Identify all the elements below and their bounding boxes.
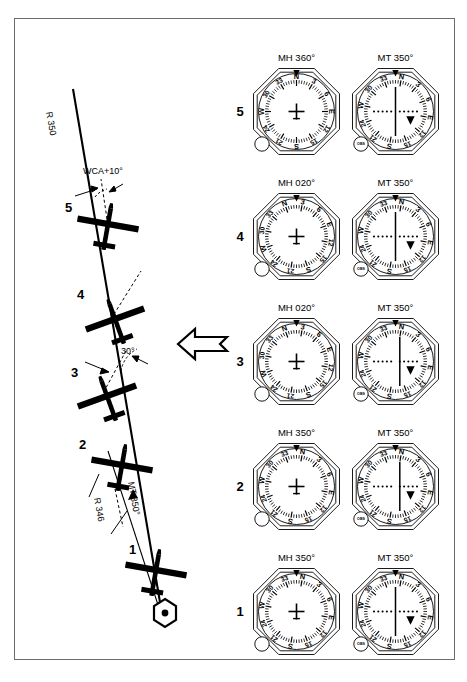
svg-text:OBS: OBS — [357, 642, 365, 646]
aircraft-number-4: 4 — [77, 288, 84, 301]
instrument-row-number-4: 4 — [232, 229, 248, 244]
heading-indicator-title-2: MH 350° — [249, 427, 344, 438]
vor-indicator-4[interactable]: MT 350°N36E1215S2124W3033OBS — [348, 177, 443, 302]
instrument-row-number-5: 5 — [232, 104, 248, 119]
aircraft-3 — [71, 366, 145, 431]
svg-text:30: 30 — [258, 351, 266, 360]
heading-indicator-face[interactable]: N36E1215S2124W3033 — [249, 64, 344, 159]
heading-indicator-title-4: MH 020° — [249, 177, 344, 188]
instrument-row-1: 1MH 350°N36E1215S2124W3033MT 350°N36E121… — [227, 552, 456, 677]
intercept-arrows — [85, 356, 148, 374]
vor-indicator-face[interactable]: N36E1215S2124W3033OBS — [348, 564, 443, 659]
vor-indicator-face[interactable]: N36E1215S2124W3033OBS — [348, 64, 443, 159]
wind-arrow — [178, 329, 227, 359]
vor-indicator-title-1: MT 350° — [348, 552, 443, 563]
vor-indicator-face[interactable]: N36E1215S2124W3033OBS — [348, 439, 443, 534]
svg-text:S: S — [294, 142, 299, 151]
vor-indicator-title-4: MT 350° — [348, 177, 443, 188]
vor-indicator-3[interactable]: MT 350°N36E1215S2124W3033OBS — [348, 302, 443, 427]
wca-angle-marks — [95, 189, 107, 197]
vor-indicator-face[interactable]: N36E1215S2124W3033OBS — [348, 189, 443, 284]
instrument-row-3: 3MH 020°N36E1215S2124W3033MT 350°N36E121… — [227, 302, 456, 427]
figure-border: R 350 WCA+10° 30° MT 350° R 346 5 4 3 2 … — [14, 18, 455, 660]
instrument-row-4: 4MH 020°N36E1215S2124W3033MT 350°N36E121… — [227, 177, 456, 302]
navigation-diagram: R 350 WCA+10° 30° MT 350° R 346 5 4 3 2 … — [15, 19, 245, 661]
vor-indicator-1[interactable]: MT 350°N36E1215S2124W3033OBS — [348, 552, 443, 677]
aircraft-number-3: 3 — [71, 366, 78, 379]
instrument-grid: 5MH 360°N36E1215S2124W3033MT 350°N36E121… — [227, 19, 456, 661]
aircraft-number-2: 2 — [79, 438, 86, 451]
wca-label: WCA+10° — [83, 167, 123, 176]
instrument-row-number-3: 3 — [232, 354, 248, 369]
vor-indicator-title-2: MT 350° — [348, 427, 443, 438]
heading-indicator-title-5: MH 360° — [249, 52, 344, 63]
svg-text:OBS: OBS — [357, 142, 365, 146]
aircraft-number-1: 1 — [129, 543, 136, 556]
instrument-row-number-2: 2 — [232, 479, 248, 494]
radial-350-leader — [89, 474, 99, 497]
heading-indicator-face[interactable]: N36E1215S2124W3033 — [249, 564, 344, 659]
heading-indicator-face[interactable]: N36E1215S2124W3033 — [249, 439, 344, 534]
heading-indicator-face[interactable]: N36E1215S2124W3033 — [249, 189, 344, 284]
aircraft-2 — [87, 439, 156, 496]
svg-text:OBS: OBS — [357, 392, 365, 396]
heading-indicator-2[interactable]: MH 350°N36E1215S2124W3033 — [249, 427, 344, 552]
heading-indicator-1[interactable]: MH 350°N36E1215S2124W3033 — [249, 552, 344, 677]
radial-346-leader — [111, 511, 127, 534]
vor-indicator-title-5: MT 350° — [348, 52, 443, 63]
svg-text:OBS: OBS — [357, 267, 365, 271]
aircraft-5 — [73, 198, 142, 255]
instrument-row-number-1: 1 — [232, 604, 248, 619]
heading-indicator-4[interactable]: MH 020°N36E1215S2124W3033 — [249, 177, 344, 302]
aircraft-number-5: 5 — [65, 201, 72, 214]
heading-indicator-3[interactable]: MH 020°N36E1215S2124W3033 — [249, 302, 344, 427]
instrument-row-5: 5MH 360°N36E1215S2124W3033MT 350°N36E121… — [227, 52, 456, 177]
heading-indicator-title-1: MH 350° — [249, 552, 344, 563]
vor-indicator-face[interactable]: N36E1215S2124W3033OBS — [348, 314, 443, 409]
heading-indicator-face[interactable]: N36E1215S2124W3033 — [249, 314, 344, 409]
wca-arrows — [75, 184, 123, 196]
vor-station-symbol — [154, 599, 176, 627]
aircraft-4 — [79, 289, 153, 354]
intercept-angle-label: 30° — [121, 347, 135, 356]
heading-indicator-title-3: MH 020° — [249, 302, 344, 313]
svg-text:OBS: OBS — [357, 517, 365, 521]
svg-text:E: E — [327, 109, 336, 114]
vor-indicator-title-3: MT 350° — [348, 302, 443, 313]
vor-indicator-2[interactable]: MT 350°N36E1215S2124W3033OBS — [348, 427, 443, 552]
heading-indicator-5[interactable]: MH 360°N36E1215S2124W3033 — [249, 52, 344, 177]
vor-indicator-5[interactable]: MT 350°N36E1215S2124W3033OBS — [348, 52, 443, 177]
instrument-row-2: 2MH 350°N36E1215S2124W3033MT 350°N36E121… — [227, 427, 456, 552]
svg-text:W: W — [257, 108, 266, 115]
